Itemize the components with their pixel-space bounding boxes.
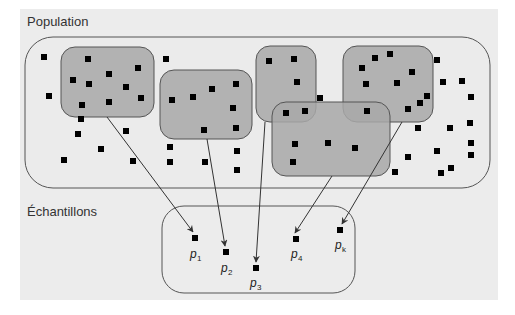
population-point — [163, 56, 169, 62]
population-point — [61, 157, 67, 163]
population-point — [138, 95, 144, 101]
sample-point-subscript: 3 — [257, 283, 262, 292]
population-point — [325, 140, 331, 146]
sample-point-subscript: 2 — [228, 268, 233, 277]
population-point — [123, 128, 129, 134]
sample-point-subscript: 1 — [197, 254, 202, 263]
samples-label: Échantillons — [27, 204, 98, 219]
population-point — [41, 54, 47, 60]
sampling-diagram: Population Échantillons p1p2p3p4pk — [0, 0, 515, 315]
population-point — [233, 81, 239, 87]
population-point — [372, 55, 378, 61]
population-point — [363, 81, 369, 87]
population-point — [130, 158, 136, 164]
population-point — [46, 93, 52, 99]
population-point — [290, 159, 296, 165]
sample-point-marker — [293, 236, 299, 242]
population-point — [364, 108, 370, 114]
population-point — [294, 79, 300, 85]
population-point — [106, 71, 112, 77]
population-point — [468, 152, 474, 158]
population-point — [405, 106, 411, 112]
population-point — [417, 100, 423, 106]
sample-point-label: p — [334, 238, 342, 252]
population-point — [405, 154, 411, 160]
population-point — [359, 65, 365, 71]
population-point — [468, 94, 474, 100]
population-point — [233, 125, 239, 131]
sample-point-label: p — [249, 276, 257, 290]
population-point — [468, 140, 474, 146]
sample-point-marker — [337, 227, 343, 233]
population-point — [135, 65, 141, 71]
population-point — [167, 159, 173, 165]
population-point — [415, 125, 421, 131]
population-point — [266, 58, 272, 64]
population-point — [448, 165, 454, 171]
population-point — [230, 105, 236, 111]
population-point — [106, 99, 112, 105]
population-point — [78, 116, 84, 122]
sample-point-label: p — [220, 261, 228, 275]
sample-point-subscript: 4 — [298, 254, 303, 263]
population-point — [234, 167, 240, 173]
population-point — [467, 120, 473, 126]
population-point — [75, 131, 81, 137]
population-point — [283, 110, 289, 116]
population-point — [352, 145, 358, 151]
population-point — [459, 78, 465, 84]
population-point — [85, 56, 91, 62]
population-point — [394, 80, 400, 86]
population-point — [70, 77, 76, 83]
population-point — [409, 69, 415, 75]
population-point — [190, 94, 196, 100]
population-point — [292, 141, 298, 147]
population-point — [201, 127, 207, 133]
population-point — [447, 125, 453, 131]
population-point — [123, 84, 129, 90]
sample-point-label: p — [189, 247, 197, 261]
population-point — [234, 148, 240, 154]
population-point — [98, 146, 104, 152]
population-point — [392, 169, 398, 175]
population-point — [438, 170, 444, 176]
population-point — [169, 97, 175, 103]
sample-point-marker — [223, 249, 229, 255]
population-point — [424, 93, 430, 99]
sample-point-label: p — [290, 247, 298, 261]
population-point — [440, 79, 446, 85]
sample-point-marker — [192, 235, 198, 241]
population-point — [79, 102, 85, 108]
population-point — [434, 148, 440, 154]
population-point — [167, 144, 173, 150]
population-point — [434, 57, 440, 63]
population-point — [317, 95, 323, 101]
population-label: Population — [27, 14, 88, 29]
sample-group-s4 — [272, 102, 390, 176]
population-point — [202, 159, 208, 165]
population-point — [209, 86, 215, 92]
population-point — [302, 108, 308, 114]
population-point — [86, 81, 92, 87]
population-point — [387, 51, 393, 57]
population-point — [291, 56, 297, 62]
sample-point-marker — [253, 265, 259, 271]
